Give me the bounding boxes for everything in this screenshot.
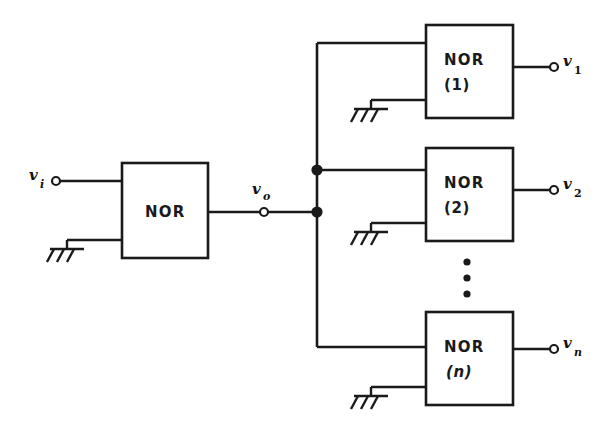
vertical-ellipsis [463, 258, 470, 297]
circuit-diagram-figure: NOR NOR (1) v 1 [0, 0, 611, 430]
output-label-v2: v [563, 175, 572, 193]
load-nor-gate-n-label: NOR [444, 338, 484, 356]
load-nor-gate-2-label: NOR [444, 174, 484, 192]
driver-nor-gate-label: NOR [145, 203, 185, 221]
ground-symbol-gaten [351, 396, 388, 409]
ground-symbol-driver [47, 249, 84, 262]
output-terminal-v2 [550, 186, 558, 194]
ground-symbol-gate2 [351, 232, 388, 245]
output-terminal-vo [260, 208, 268, 216]
output-label-vn-subscript: n [574, 346, 582, 359]
circuit-schematic-svg: NOR NOR (1) v 1 [0, 0, 611, 430]
output-label-vo: v [252, 180, 261, 198]
output-label-v1-subscript: 1 [574, 64, 582, 77]
output-terminal-v1 [550, 63, 558, 71]
output-label-v1: v [563, 52, 572, 70]
load-nor-gate-2-body [426, 148, 513, 241]
load-nor-gate-1-label: NOR [444, 51, 484, 69]
input-label-vi-subscript: i [40, 178, 44, 191]
load-nor-gate-1-index: (1) [444, 76, 470, 94]
input-label-vi: v [29, 166, 38, 184]
ellipsis-dot-1 [463, 258, 470, 265]
wire-junction-dot-lower [311, 206, 322, 217]
output-label-vn: v [563, 334, 572, 352]
ellipsis-dot-3 [463, 290, 470, 297]
ground-symbol-gate1 [351, 109, 388, 122]
input-terminal-vi [52, 177, 60, 185]
load-nor-gate-1-body [426, 25, 513, 118]
load-nor-gate-2-index: (2) [444, 199, 470, 217]
load-nor-gate-n-index: (n) [446, 363, 472, 381]
ellipsis-dot-2 [463, 274, 470, 281]
wire-junction-dot-upper [311, 164, 322, 175]
output-terminal-vn [550, 345, 558, 353]
output-label-v2-subscript: 2 [574, 187, 582, 200]
output-label-vo-subscript: o [263, 190, 270, 203]
load-nor-gate-n-body [426, 312, 513, 405]
